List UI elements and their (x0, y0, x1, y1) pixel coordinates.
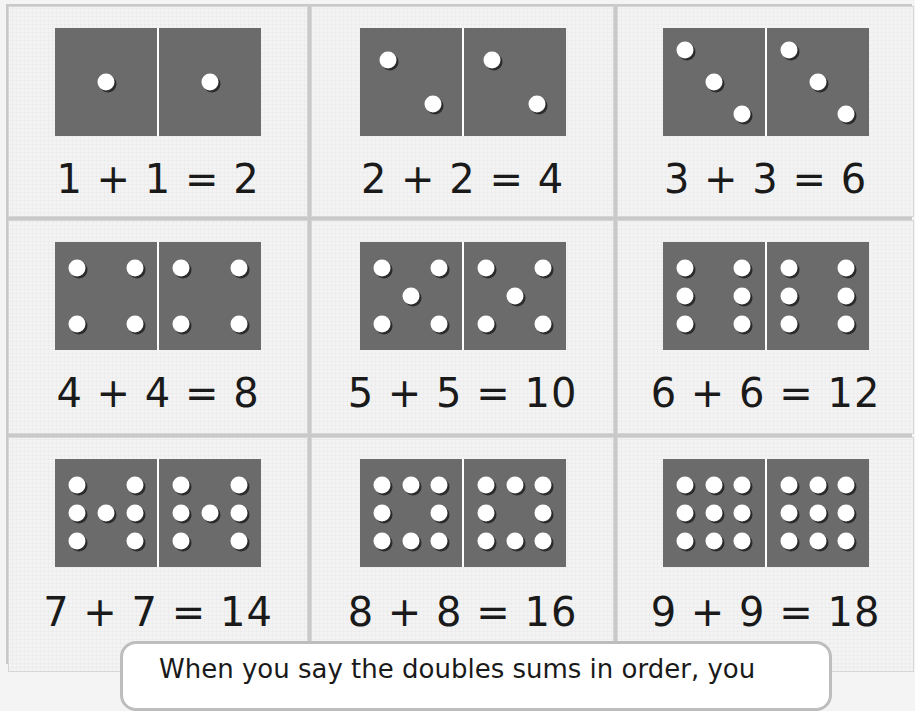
pip-icon (173, 505, 190, 522)
pip-icon (838, 476, 855, 493)
pip-icon (477, 259, 494, 276)
domino-4 (55, 242, 261, 350)
pip-icon (838, 106, 855, 123)
domino-half-right (159, 459, 261, 567)
pip-icon (705, 505, 722, 522)
domino-8 (360, 459, 566, 567)
pip-icon (69, 505, 86, 522)
pip-icon (838, 505, 855, 522)
domino-half-right (767, 459, 869, 567)
pip-icon (373, 316, 390, 333)
pip-icon (477, 505, 494, 522)
pip-icon (230, 505, 247, 522)
pip-icon (126, 476, 143, 493)
pip-icon (173, 316, 190, 333)
pip-icon (734, 533, 751, 550)
domino-half-left (663, 28, 765, 136)
pip-icon (202, 505, 219, 522)
pip-icon (676, 476, 693, 493)
equation: 3 + 3 = 6 (617, 156, 914, 202)
pip-icon (431, 259, 448, 276)
equation: 1 + 1 = 2 (8, 156, 308, 202)
pip-icon (676, 41, 693, 58)
pip-icon (69, 533, 86, 550)
pip-icon (230, 316, 247, 333)
pip-icon (734, 505, 751, 522)
pip-icon (373, 533, 390, 550)
pip-icon (535, 259, 552, 276)
pip-icon (734, 259, 751, 276)
pip-icon (809, 74, 826, 91)
equation: 2 + 2 = 4 (311, 156, 614, 202)
card-7: 7 + 7 = 14 (8, 437, 308, 672)
equation: 6 + 6 = 12 (617, 370, 914, 416)
domino-half-left (663, 242, 765, 350)
pip-icon (98, 74, 115, 91)
domino-half-right (159, 242, 261, 350)
equation: 4 + 4 = 8 (8, 370, 308, 416)
pip-icon (780, 259, 797, 276)
pip-icon (373, 505, 390, 522)
pip-icon (69, 259, 86, 276)
pip-icon (734, 316, 751, 333)
pip-icon (230, 259, 247, 276)
domino-5 (360, 242, 566, 350)
pip-icon (477, 316, 494, 333)
pip-icon (373, 259, 390, 276)
pip-icon (838, 316, 855, 333)
pip-icon (431, 533, 448, 550)
pip-icon (202, 74, 219, 91)
pip-icon (424, 95, 441, 112)
pip-icon (838, 259, 855, 276)
pip-icon (506, 533, 523, 550)
pip-icon (535, 505, 552, 522)
equation: 8 + 8 = 16 (311, 589, 614, 635)
domino-1 (55, 28, 261, 136)
card-2: 2 + 2 = 4 (311, 6, 614, 217)
equation: 7 + 7 = 14 (8, 589, 308, 635)
pip-icon (402, 476, 419, 493)
domino-6 (663, 242, 869, 350)
domino-3 (663, 28, 869, 136)
pip-icon (780, 288, 797, 305)
pip-icon (506, 476, 523, 493)
pip-icon (780, 505, 797, 522)
pip-icon (535, 476, 552, 493)
doubles-grid: 1 + 1 = 2 2 + 2 = 4 3 + 3 = 6 4 + 4 = 8 … (6, 4, 912, 664)
pip-icon (477, 476, 494, 493)
pip-icon (380, 52, 397, 69)
pip-icon (676, 505, 693, 522)
pip-icon (809, 476, 826, 493)
pip-icon (780, 533, 797, 550)
domino-2 (360, 28, 566, 136)
equation: 5 + 5 = 10 (311, 370, 614, 416)
pip-icon (230, 476, 247, 493)
pip-icon (69, 476, 86, 493)
pip-icon (535, 316, 552, 333)
pip-icon (230, 533, 247, 550)
pip-icon (676, 316, 693, 333)
card-8: 8 + 8 = 16 (311, 437, 614, 672)
card-6: 6 + 6 = 12 (617, 220, 914, 434)
pip-icon (126, 533, 143, 550)
pip-icon (98, 505, 115, 522)
pip-icon (431, 505, 448, 522)
pip-icon (373, 476, 390, 493)
card-1: 1 + 1 = 2 (8, 6, 308, 217)
pip-icon (705, 533, 722, 550)
pip-icon (173, 476, 190, 493)
pip-icon (126, 505, 143, 522)
pip-icon (676, 288, 693, 305)
domino-7 (55, 459, 261, 567)
pip-icon (528, 95, 545, 112)
card-3: 3 + 3 = 6 (617, 6, 914, 217)
card-9: 9 + 9 = 18 (617, 437, 914, 672)
pip-icon (431, 316, 448, 333)
domino-half-right (464, 459, 566, 567)
pip-icon (809, 533, 826, 550)
domino-half-left (360, 28, 462, 136)
pip-icon (734, 288, 751, 305)
pip-icon (126, 316, 143, 333)
pip-icon (477, 533, 494, 550)
domino-half-right (767, 28, 869, 136)
